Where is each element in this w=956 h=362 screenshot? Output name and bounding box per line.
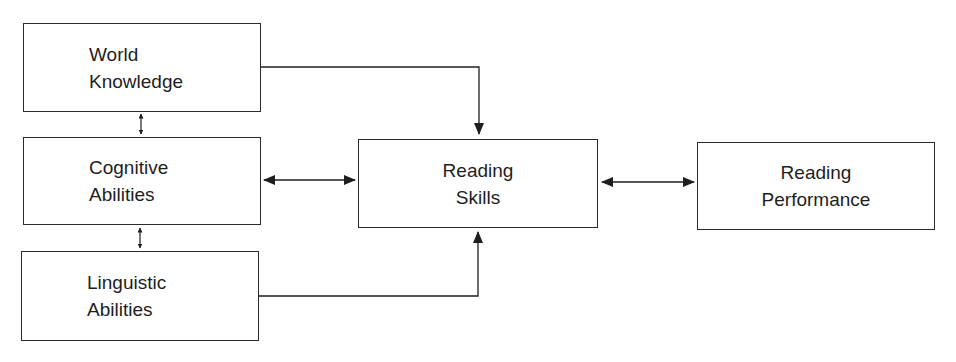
node-label-line: Skills xyxy=(443,184,514,211)
node-label: Linguistic Abilities xyxy=(87,269,166,323)
node-label-line: Performance xyxy=(762,186,871,213)
node-label: Reading Skills xyxy=(443,157,514,211)
node-label: Reading Performance xyxy=(762,159,871,213)
edge-linguistic-reading-skills xyxy=(258,232,478,296)
node-linguistic-abilities: Linguistic Abilities xyxy=(21,251,259,341)
node-label-line: Abilities xyxy=(89,181,168,208)
node-world-knowledge: World Knowledge xyxy=(23,23,261,112)
node-label-line: Linguistic xyxy=(87,269,166,296)
node-label-line: Knowledge xyxy=(89,68,183,95)
node-label-line: Reading xyxy=(762,159,871,186)
node-reading-skills: Reading Skills xyxy=(358,139,598,228)
node-label: World Knowledge xyxy=(89,41,183,95)
node-label: Cognitive Abilities xyxy=(89,154,168,208)
edge-world-reading-skills xyxy=(260,67,479,134)
node-reading-performance: Reading Performance xyxy=(697,142,935,230)
node-label-line: Reading xyxy=(443,157,514,184)
node-label-line: Abilities xyxy=(87,296,166,323)
node-cognitive-abilities: Cognitive Abilities xyxy=(23,137,261,225)
node-label-line: Cognitive xyxy=(89,154,168,181)
node-label-line: World xyxy=(89,41,183,68)
